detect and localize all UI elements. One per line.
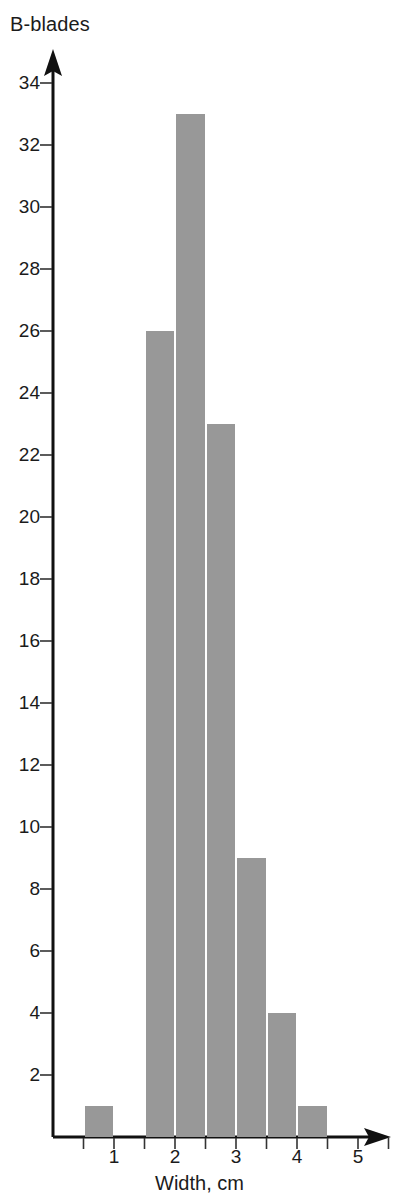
histogram-bar	[237, 858, 266, 1137]
histogram-bar	[268, 1013, 297, 1137]
histogram-bar	[146, 331, 175, 1137]
histogram-figure: B-blades 246810121416182022242628303234 …	[0, 0, 399, 1201]
histogram-bar	[85, 1106, 114, 1137]
histogram-bars	[0, 0, 399, 1201]
plot-area: 246810121416182022242628303234 12345	[0, 0, 399, 1201]
histogram-bar	[207, 424, 236, 1137]
histogram-bar	[176, 114, 205, 1137]
histogram-bar	[298, 1106, 327, 1137]
x-axis-title: Width, cm	[0, 1172, 399, 1195]
